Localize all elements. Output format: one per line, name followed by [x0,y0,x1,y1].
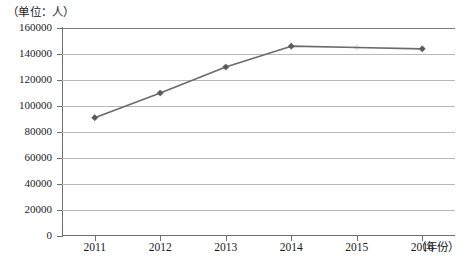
x-axis-tick-label: 2011 [83,241,106,253]
y-axis-tick-labels: 0200004000060000800001000001200001400001… [0,28,58,236]
data-point-marker [223,64,229,70]
y-axis-unit-label: （单位：人） [7,3,75,19]
data-point-marker [157,90,163,96]
y-axis-tick-label: 20000 [25,204,53,215]
x-axis-tick-label: 2012 [149,241,172,253]
x-axis-tick-labels: 201120122013201420152016 [0,241,473,257]
data-point-marker [354,44,360,50]
y-axis-tick-label: 140000 [19,48,52,59]
y-axis-tick-label: 60000 [25,152,53,163]
y-axis-tick-label: 100000 [19,100,52,111]
x-axis-tick-label: 2015 [345,241,368,253]
y-axis-tick-label: 0 [47,230,53,241]
y-axis-tick-label: 80000 [25,126,53,137]
data-point-marker [92,115,98,121]
x-axis-title: （年份） [415,241,459,253]
data-series-group [62,28,455,236]
y-axis-tick-label: 120000 [19,74,52,85]
data-point-marker [288,43,294,49]
x-axis-tick-label: 2014 [280,241,303,253]
data-point-marker [419,46,425,52]
y-axis-tick-label: 160000 [19,22,52,33]
y-axis-tick-label: 40000 [25,178,53,189]
line-chart: （单位：人） 020000400006000080000100000120000… [0,0,473,272]
series-line [95,46,423,118]
y-axis-tick [57,236,62,237]
x-axis-tick-label: 2013 [214,241,237,253]
plot-area [62,28,455,236]
